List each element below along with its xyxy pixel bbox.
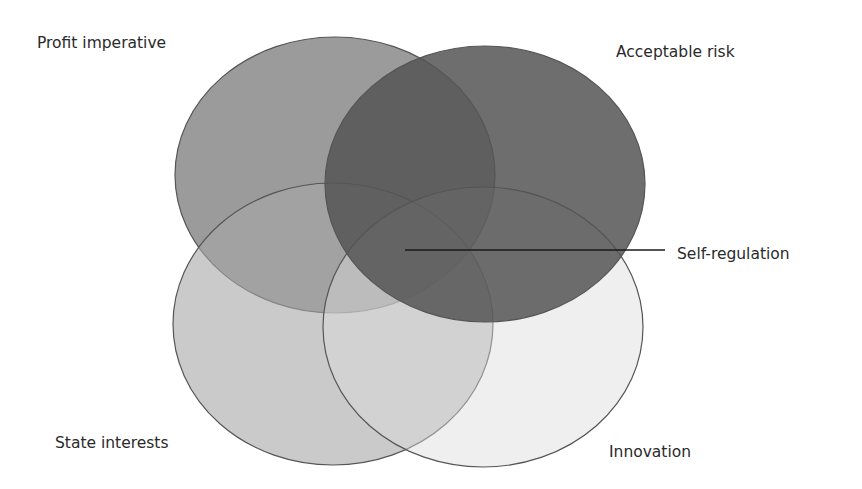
label-innovation: Innovation xyxy=(609,445,691,461)
venn-circles xyxy=(173,37,645,467)
label-profit-imperative: Profit imperative xyxy=(37,36,166,52)
label-acceptable-risk: Acceptable risk xyxy=(616,45,735,61)
label-self-regulation: Self-regulation xyxy=(677,247,790,263)
venn-circle-risk xyxy=(325,46,645,322)
label-state-interests: State interests xyxy=(55,436,169,452)
